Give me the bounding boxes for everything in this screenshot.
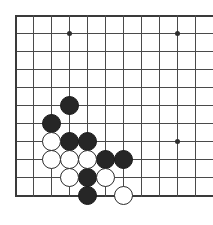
grid-line-horizontal xyxy=(15,33,213,34)
white-stone[interactable] xyxy=(42,132,61,151)
black-stone[interactable] xyxy=(78,186,97,205)
go-board-diagram xyxy=(0,0,213,225)
black-stone[interactable] xyxy=(42,114,61,133)
white-stone[interactable] xyxy=(96,168,115,187)
black-stone[interactable] xyxy=(60,132,79,151)
grid-line-horizontal xyxy=(15,69,213,70)
grid-line-vertical xyxy=(123,15,124,197)
black-stone[interactable] xyxy=(78,132,97,151)
white-stone[interactable] xyxy=(60,168,79,187)
grid-line-vertical xyxy=(159,15,160,197)
white-stone[interactable] xyxy=(114,186,133,205)
star-point xyxy=(67,31,72,36)
goban-grid xyxy=(0,0,213,225)
black-stone[interactable] xyxy=(60,96,79,115)
grid-line-vertical xyxy=(141,15,142,197)
white-stone[interactable] xyxy=(60,150,79,169)
white-stone[interactable] xyxy=(78,150,97,169)
grid-line-vertical xyxy=(51,15,52,197)
black-stone[interactable] xyxy=(78,168,97,187)
grid-line-vertical xyxy=(15,15,17,197)
grid-line-vertical xyxy=(177,15,178,197)
grid-line-vertical xyxy=(195,15,196,197)
white-stone[interactable] xyxy=(42,150,61,169)
grid-line-horizontal xyxy=(15,15,213,17)
grid-line-horizontal xyxy=(15,105,213,106)
grid-line-vertical xyxy=(33,15,34,197)
grid-line-horizontal xyxy=(15,87,213,88)
star-point xyxy=(175,31,180,36)
black-stone[interactable] xyxy=(96,150,115,169)
grid-line-horizontal xyxy=(15,51,213,52)
star-point xyxy=(175,139,180,144)
black-stone[interactable] xyxy=(114,150,133,169)
